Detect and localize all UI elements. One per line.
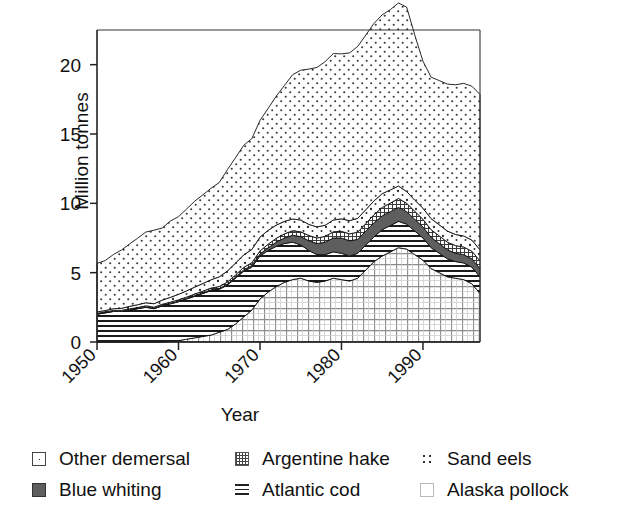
legend-item-blue-whiting: Blue whiting <box>32 479 235 501</box>
y-axis-title: Million tonnes <box>71 51 93 251</box>
chart-legend: Other demersal Argentine hake Sand eels … <box>0 443 624 505</box>
alaska-pollock-swatch-icon <box>420 483 434 497</box>
other-demersal-swatch-icon <box>32 452 46 466</box>
sand-eels-swatch-icon <box>420 452 434 466</box>
x-tick-label: 1980 <box>302 345 344 387</box>
legend-item-argentine-hake: Argentine hake <box>235 448 420 470</box>
x-axis-ticks: 19501960197019801990 <box>57 342 425 387</box>
legend-item-sand-eels: Sand eels <box>420 448 532 470</box>
legend-label: Sand eels <box>447 448 532 470</box>
stacked-area-chart: 05101520 19501960197019801990 <box>0 0 624 440</box>
blue-whiting-swatch-icon <box>32 483 46 497</box>
legend-row-2: Blue whiting Atlantic cod Alaska pollock <box>0 474 624 505</box>
x-tick-label: 1960 <box>139 345 181 387</box>
x-axis-title: Year <box>0 404 480 426</box>
x-tick-label: 1970 <box>220 345 262 387</box>
argentine-hake-swatch-icon <box>235 452 249 466</box>
area-layers <box>97 3 480 342</box>
legend-label: Atlantic cod <box>262 479 360 501</box>
atlantic-cod-swatch-icon <box>235 483 249 497</box>
legend-row-1: Other demersal Argentine hake Sand eels <box>0 443 624 474</box>
legend-label: Alaska pollock <box>447 479 568 501</box>
chart-figure: Million tonnes <box>0 0 624 531</box>
legend-label: Blue whiting <box>59 479 161 501</box>
legend-item-alaska-pollock: Alaska pollock <box>420 479 568 501</box>
y-tick-label: 5 <box>70 263 81 284</box>
x-tick-label: 1990 <box>383 345 425 387</box>
plot-area: Million tonnes <box>0 0 624 440</box>
x-tick-label: 1950 <box>57 345 99 387</box>
legend-item-atlantic-cod: Atlantic cod <box>235 479 420 501</box>
legend-label: Argentine hake <box>262 448 390 470</box>
legend-label: Other demersal <box>59 448 190 470</box>
legend-item-other-demersal: Other demersal <box>32 448 235 470</box>
